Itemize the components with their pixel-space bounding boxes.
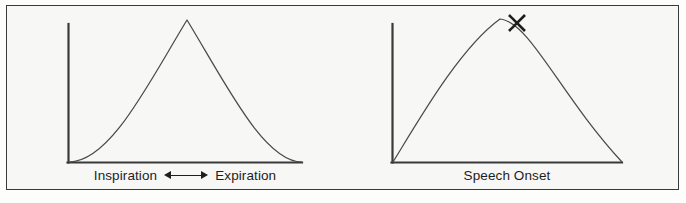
caption-expiration-label: Expiration	[215, 168, 276, 183]
double-headed-arrow-icon	[164, 170, 208, 182]
caption-speech-onset-label: Speech Onset	[464, 168, 551, 183]
figure-border	[6, 5, 679, 190]
caption-inspiration-label: Inspiration	[94, 168, 157, 183]
figure-root: Inspiration Expiration Speech Onset	[0, 0, 686, 203]
right-panel-caption: Speech Onset	[392, 168, 622, 183]
left-panel-caption: Inspiration Expiration	[68, 168, 302, 183]
